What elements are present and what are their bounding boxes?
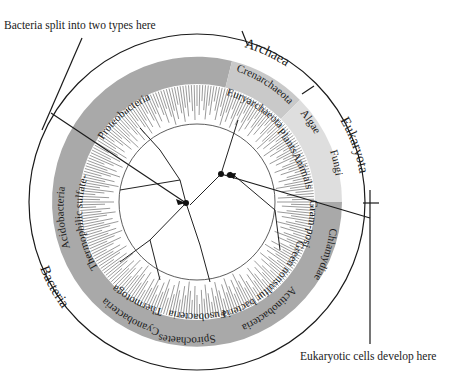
callout-bacteria-split: Bacteria split into two types here <box>4 19 156 31</box>
domain-label-eukaryota: Eukaryota <box>337 114 371 175</box>
circular-tree: Archaea Eukaryota Bacteria Proteobacteri… <box>0 0 449 388</box>
domain-label-bacteria: Bacteria <box>37 263 72 311</box>
callout-eukaryotic-cells: Eukaryotic cells develop here <box>300 350 436 362</box>
domain-label-archaea: Archaea <box>243 36 293 70</box>
phylogeny-diagram: Archaea Eukaryota Bacteria Proteobacteri… <box>0 0 449 388</box>
